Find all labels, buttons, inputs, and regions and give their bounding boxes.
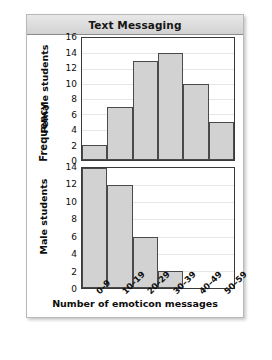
- x-axis-title: Number of emoticon messages: [27, 298, 243, 309]
- bar-slot: [209, 38, 234, 160]
- y-tick-label: 6: [71, 232, 77, 242]
- y-tick-label: 6: [71, 110, 77, 120]
- bars-male: [82, 168, 234, 288]
- y-ticks-male: 02468101214: [51, 167, 79, 289]
- plot-area-male: [81, 167, 235, 289]
- bar-slot: [107, 168, 132, 288]
- page-title: Text Messaging: [89, 19, 182, 31]
- y-ticks-female: 0246810121416: [51, 37, 79, 161]
- plot-area-female: [81, 37, 235, 161]
- y-tick-label: 12: [66, 179, 77, 189]
- bar-slot: [158, 168, 183, 288]
- y-tick-label: 14: [66, 48, 77, 58]
- y-tick-label: 8: [71, 94, 77, 104]
- bar: [133, 61, 158, 160]
- y-tick-label: 14: [66, 162, 77, 172]
- bars-female: [82, 38, 234, 160]
- bar: [82, 168, 107, 288]
- bar-slot: [209, 168, 234, 288]
- chart-card: Text Messaging Frequency Female students…: [26, 14, 244, 318]
- y-tick-label: 8: [71, 214, 77, 224]
- y-tick-label: 2: [71, 141, 77, 151]
- y-tick-label: 2: [71, 267, 77, 277]
- bar-slot: [82, 168, 107, 288]
- bar-slot: [183, 168, 208, 288]
- bar: [107, 107, 132, 160]
- bar-slot: [107, 38, 132, 160]
- bar: [183, 84, 208, 160]
- y-tick-label: 10: [66, 79, 77, 89]
- bar-slot: [158, 38, 183, 160]
- y-tick-label: 10: [66, 197, 77, 207]
- bar-slot: [133, 168, 158, 288]
- bar-slot: [183, 38, 208, 160]
- y-tick-label: 4: [71, 249, 77, 259]
- panel-female-students: Female students 0246810121416: [27, 37, 243, 161]
- panel-label-female: Female students: [39, 48, 50, 134]
- chart-title-bar: Text Messaging: [27, 15, 243, 35]
- y-tick-label: 12: [66, 63, 77, 73]
- y-tick-label: 4: [71, 125, 77, 135]
- bar: [82, 145, 107, 160]
- bar-slot: [133, 38, 158, 160]
- bar-slot: [82, 38, 107, 160]
- bar: [107, 185, 132, 288]
- y-tick-label: 16: [66, 32, 77, 42]
- bar: [158, 53, 183, 160]
- bar: [209, 122, 234, 160]
- panel-label-male: Male students: [38, 177, 49, 257]
- y-tick-label: 0: [71, 284, 77, 294]
- panel-male-students: Male students 02468101214: [27, 167, 243, 289]
